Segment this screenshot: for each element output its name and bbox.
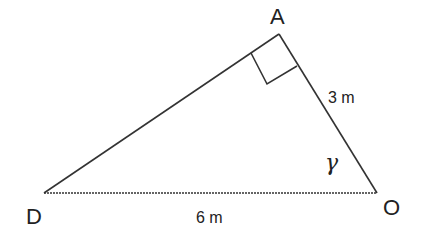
side-label-do: 6 m [196, 209, 223, 226]
vertex-label-d: D [26, 204, 42, 229]
side-ad [44, 34, 279, 193]
angle-label-gamma: γ [325, 150, 339, 175]
side-label-ao: 3 m [328, 89, 355, 106]
vertex-label-a: A [270, 4, 285, 29]
triangle-diagram: A D O 3 m 6 m γ [0, 0, 426, 248]
right-angle-marker [251, 53, 297, 84]
vertex-label-o: O [383, 195, 400, 220]
